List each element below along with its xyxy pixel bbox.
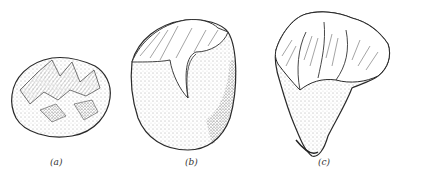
stone-tool-b (131, 19, 236, 150)
stone-tool-c (275, 12, 389, 156)
figure-label-c: (c) (318, 157, 330, 167)
figure-label-a: (a) (50, 157, 62, 167)
stone-tool-a (12, 57, 111, 137)
figure-label-b: (b) (185, 157, 198, 167)
stone-tools-illustration (0, 0, 423, 179)
